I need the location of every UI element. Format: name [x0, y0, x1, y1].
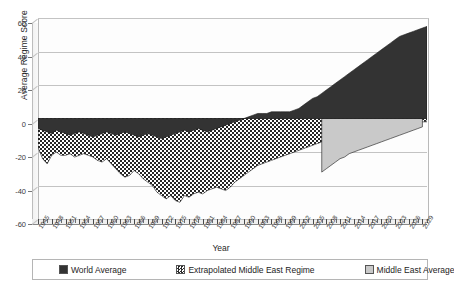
y-tick-label-40: 40 — [0, 53, 26, 62]
y-tick-mark--20 — [28, 157, 32, 158]
y-tick-label-20: 20 — [0, 86, 26, 95]
middle-east-average-swatch — [365, 265, 374, 274]
legend-item-extrapolated-middle-east-regime: Extrapolated Middle East Regime — [176, 265, 314, 275]
y-tick-mark-40 — [28, 57, 32, 58]
chart-legend: World Average Extrapolated Middle East R… — [32, 259, 428, 280]
legend-item-world-average: World Average — [59, 265, 126, 275]
y-tick-label-0: 0 — [0, 120, 26, 129]
y-tick-label--20: -20 — [0, 153, 26, 162]
legend-label-middle-east-average: Middle East Average — [377, 265, 454, 275]
legend-label-extrapolated-middle-east-regime: Extrapolated Middle East Regime — [188, 265, 314, 275]
area-series-middle-east-average — [322, 119, 423, 173]
y-tick-label--40: -40 — [0, 187, 26, 196]
y-tick-mark--40 — [28, 191, 32, 192]
extrapolated-middle-east-regime-swatch — [176, 265, 185, 274]
y-tick-label--60: -60 — [0, 220, 26, 229]
plot-data-areas — [38, 18, 427, 219]
y-tick-mark-0 — [28, 124, 32, 125]
legend-label-world-average: World Average — [71, 265, 126, 275]
y-tick-mark-20 — [28, 90, 32, 91]
y-tick-mark--60 — [28, 224, 32, 225]
world-average-swatch — [59, 265, 68, 274]
legend-item-middle-east-average: Middle East Average — [365, 265, 454, 275]
y-tick-label-60: 60 — [0, 19, 26, 28]
y-tick-mark-60 — [28, 23, 32, 24]
x-axis-title: Year — [176, 243, 266, 253]
